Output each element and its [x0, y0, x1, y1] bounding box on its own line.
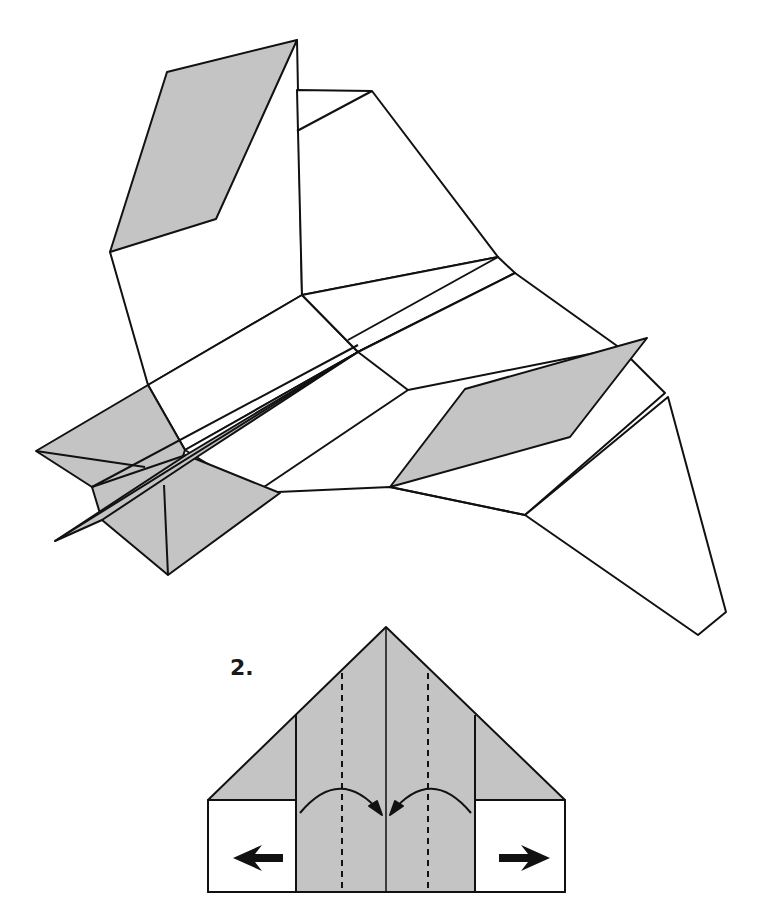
- flap-right-white: [475, 800, 565, 892]
- flap-left-white: [208, 800, 296, 892]
- step-number: 2.: [230, 655, 254, 680]
- origami-diagram: 2.: [0, 0, 762, 920]
- step-2-illustration: [0, 0, 762, 920]
